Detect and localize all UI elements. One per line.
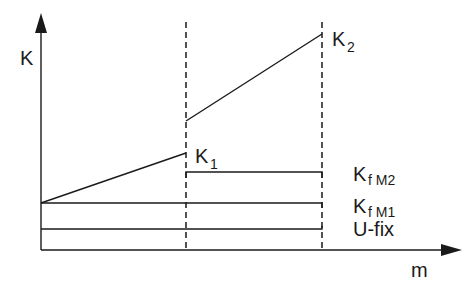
k2-label-sub: 2 [347, 39, 355, 55]
kfm2-label-sub: f M2 [368, 172, 395, 188]
k1-label-main: K [195, 145, 209, 167]
k1-label-sub: 1 [210, 156, 218, 172]
kfm1-level-line [41, 203, 322, 208]
k2-line [186, 34, 322, 121]
y-axis-arrow-icon [35, 13, 47, 33]
k1-label: K 1 [195, 145, 218, 172]
kfm1-label-main: K [353, 195, 367, 217]
ufix-label: U-fix [353, 218, 394, 240]
kfm2-label: K f M2 [353, 163, 395, 188]
kfm2-label-main: K [353, 163, 367, 185]
kfm1-label: K f M1 [353, 195, 395, 220]
k2-label: K 2 [332, 28, 355, 55]
diagram-canvas: K m K 1 K 2 K f M2 K f M1 U-fix [0, 0, 476, 286]
y-axis-label: K [20, 47, 34, 69]
k2-label-main: K [332, 28, 346, 50]
kfm2-level-line [186, 172, 322, 178]
x-axis-label: m [411, 259, 428, 281]
ufix-level-line [41, 226, 322, 229]
k1-line [41, 153, 186, 203]
x-axis-arrow-icon [441, 244, 462, 256]
